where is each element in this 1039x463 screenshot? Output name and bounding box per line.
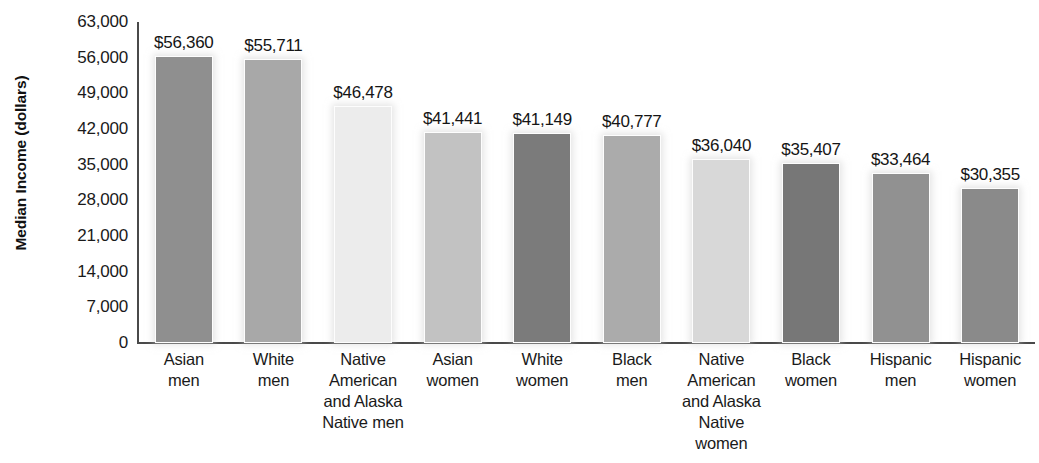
x-axis-category-label-line: Native [671,349,773,370]
bar [782,163,840,343]
bar-value-label: $40,777 [602,113,661,131]
y-axis-tick-label: 49,000 [0,84,128,101]
x-axis-category-label: Whitewomen [491,349,593,391]
x-axis-category-label-line: American [671,370,773,391]
bar-group: $41,441 [424,22,482,343]
x-axis-category-label: Blackwomen [760,349,862,391]
bar [872,173,930,344]
x-axis-category-label: Hispanicmen [850,349,952,391]
x-axis-category-label-line: White [491,349,593,370]
x-axis-category-label-line: Black [760,349,862,370]
bar-value-label: $41,149 [513,111,572,129]
bar [244,59,302,343]
x-axis-category-label-line: American [312,370,414,391]
y-axis-tick-label: 7,000 [0,298,128,315]
x-axis-category-label-line: women [760,370,862,391]
bar-group: $30,355 [961,22,1019,343]
bar [424,132,482,343]
x-axis-category-label-line: men [133,370,235,391]
bar-value-label: $35,407 [781,141,840,159]
x-axis-category-label-line: women [402,370,504,391]
x-axis-category-label-line: and Alaska [671,391,773,412]
x-axis-category-label-line: Native [312,349,414,370]
x-axis-category-label-line: Asian [402,349,504,370]
y-axis-tick-label: 56,000 [0,49,128,66]
bar-value-label: $30,355 [961,166,1020,184]
bar-group: $40,777 [603,22,661,343]
bar-group: $33,464 [872,22,930,343]
x-axis-category-label-line: Hispanic [850,349,952,370]
bar-group: $56,360 [155,22,213,343]
bar [603,135,661,343]
y-axis-tick-label: 63,000 [0,13,128,30]
x-axis-category-label: Asianwomen [402,349,504,391]
x-axis-category-label-line: Native men [312,412,414,433]
x-axis-category-label-line: women [939,370,1039,391]
bar-group: $36,040 [692,22,750,343]
bar [334,106,392,343]
bar-chart: Median Income (dollars) 63,00056,00049,0… [0,0,1039,463]
bar-value-label: $41,441 [423,110,482,128]
x-axis-category-label-line: men [850,370,952,391]
x-axis-category-label-line: women [491,370,593,391]
y-axis-tick-label: 28,000 [0,191,128,208]
x-axis-category-label: Blackmen [581,349,683,391]
x-axis-category-label-line: men [581,370,683,391]
bar-value-label: $46,478 [333,84,392,102]
x-axis-category-label-line: Hispanic [939,349,1039,370]
x-axis-category-label-line: men [223,370,325,391]
x-axis-category-label: NativeAmericanand AlaskaNative men [312,349,414,433]
x-axis-category-labels: AsianmenWhitemenNativeAmericanand Alaska… [139,349,1035,463]
x-axis-category-label-line: White [223,349,325,370]
x-axis-category-label: NativeAmericanand AlaskaNative women [671,349,773,454]
bar-group: $46,478 [334,22,392,343]
bar-group: $41,149 [513,22,571,343]
x-axis-category-label-line: Asian [133,349,235,370]
x-axis-category-label-line: Black [581,349,683,370]
x-axis-category-label-line: and Alaska [312,391,414,412]
x-axis-category-label-line: Native women [671,412,773,454]
bar [155,56,213,343]
bar [961,188,1019,343]
y-axis-tick-label: 35,000 [0,156,128,173]
bar [513,133,571,343]
bar [692,159,750,343]
y-axis-tick-labels: 63,00056,00049,00042,00035,00028,00021,0… [0,0,128,463]
y-axis-tick-label: 21,000 [0,227,128,244]
bar-group: $35,407 [782,22,840,343]
y-axis-tick-label: 42,000 [0,120,128,137]
bar-value-label: $55,711 [244,37,302,55]
x-axis-category-label: Hispanicwomen [939,349,1039,391]
plot-area: $56,360$55,711$46,478$41,441$41,149$40,7… [139,22,1035,343]
bar-value-label: $56,360 [154,34,213,52]
bar-value-label: $33,464 [871,151,930,169]
y-axis-tick-label: 0 [0,334,128,351]
bar-value-label: $36,040 [692,137,751,155]
bar-group: $55,711 [244,22,302,343]
x-axis-category-label: Whitemen [223,349,325,391]
y-axis-tick-label: 14,000 [0,263,128,280]
x-axis-category-label: Asianmen [133,349,235,391]
